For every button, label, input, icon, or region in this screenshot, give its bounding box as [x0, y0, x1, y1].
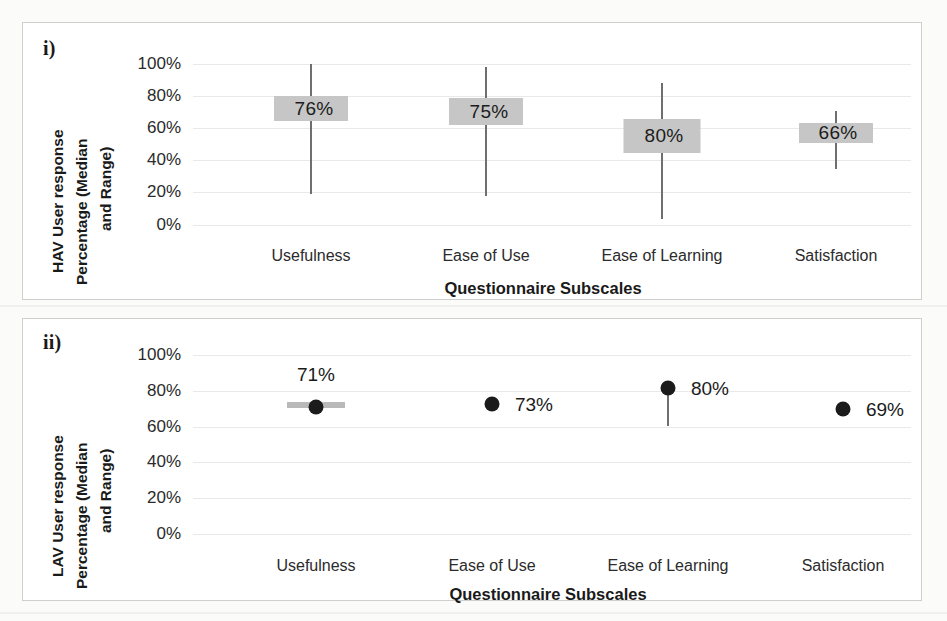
- y-axis-title-lav-line1: LAV User response: [49, 435, 68, 577]
- ytick-lav-40: 40%: [101, 452, 181, 472]
- ytick-hav-20: 20%: [101, 182, 181, 202]
- ytick-lav-60: 60%: [101, 417, 181, 437]
- value-label-ease-of-learning: 80%: [645, 125, 684, 147]
- gridline-lav-80: [193, 391, 911, 392]
- panel-tag-i: i): [43, 37, 56, 60]
- xtick-hav-satisfaction: Satisfaction: [795, 247, 878, 265]
- marker-ease-of-use: [485, 397, 500, 412]
- value-label-satisfaction: 66%: [819, 122, 858, 144]
- ytick-lav-0: 0%: [101, 524, 181, 544]
- panel-lav: ii) LAV User response Percentage (Median…: [22, 318, 922, 601]
- value-label-lav-ease-of-use: 73%: [515, 394, 553, 416]
- gridline-lav-100: [193, 355, 911, 356]
- xtick-lav-ease-of-use: Ease of Use: [448, 557, 535, 575]
- gridline-lav-0: [193, 534, 911, 535]
- ytick-hav-0: 0%: [101, 215, 181, 235]
- figure-container: i) HAV User response Percentage (Median …: [0, 0, 947, 621]
- y-axis-title-lav-line2: Percentage (Median: [73, 443, 92, 589]
- gridline-lav-20: [193, 498, 911, 499]
- plot-area-lav: 100% 80% 60% 40% 20% 0% 71% 73% 80% 69% …: [193, 319, 911, 602]
- gridline-20: [193, 192, 911, 193]
- xtick-hav-ease-of-learning: Ease of Learning: [602, 247, 723, 265]
- gridline-lav-60: [193, 427, 911, 428]
- marker-ease-of-learning: [661, 381, 676, 396]
- ytick-lav-20: 20%: [101, 488, 181, 508]
- x-axis-title-hav: Questionnaire Subscales: [444, 279, 641, 298]
- gridline-lav-40: [193, 462, 911, 463]
- whisker-ease-of-use: [485, 67, 487, 196]
- gridline-100: [193, 64, 911, 65]
- xtick-hav-ease-of-use: Ease of Use: [442, 247, 529, 265]
- panel-hav: i) HAV User response Percentage (Median …: [22, 22, 922, 300]
- scan-artifact: [0, 305, 947, 307]
- value-label-usefulness: 76%: [295, 98, 334, 120]
- xtick-lav-usefulness: Usefulness: [276, 557, 355, 575]
- xtick-lav-ease-of-learning: Ease of Learning: [608, 557, 729, 575]
- gridline-40: [193, 160, 911, 161]
- ytick-hav-80: 80%: [101, 86, 181, 106]
- ytick-hav-60: 60%: [101, 118, 181, 138]
- marker-satisfaction: [836, 402, 851, 417]
- value-label-lav-satisfaction: 69%: [866, 399, 904, 421]
- ytick-lav-80: 80%: [101, 381, 181, 401]
- y-axis-title-hav-line1: HAV User response: [49, 129, 68, 273]
- ytick-hav-100: 100%: [101, 54, 181, 74]
- ytick-lav-100: 100%: [101, 345, 181, 365]
- scan-artifact-bottom: [0, 612, 947, 614]
- x-axis-title-lav: Questionnaire Subscales: [449, 585, 646, 604]
- ytick-hav-40: 40%: [101, 150, 181, 170]
- y-axis-title-hav-line2: Percentage (Median: [73, 139, 92, 285]
- value-label-lav-usefulness: 71%: [297, 364, 335, 386]
- xtick-hav-usefulness: Usefulness: [271, 247, 350, 265]
- marker-usefulness: [309, 400, 324, 415]
- gridline-0: [193, 225, 911, 226]
- value-label-ease-of-use: 75%: [470, 101, 509, 123]
- plot-area-hav: 100% 80% 60% 40% 20% 0% 76% 75% 80% 66% …: [193, 23, 911, 301]
- panel-tag-ii: ii): [43, 331, 61, 354]
- whisker-usefulness: [310, 64, 312, 194]
- value-label-lav-ease-of-learning: 80%: [691, 378, 729, 400]
- xtick-lav-satisfaction: Satisfaction: [802, 557, 885, 575]
